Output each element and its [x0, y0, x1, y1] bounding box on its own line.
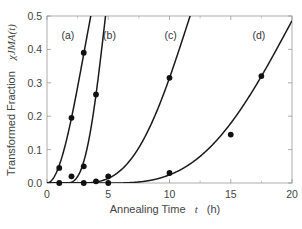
data-point-c	[167, 75, 173, 81]
data-point-a	[69, 115, 75, 121]
x-tick-label: 0	[44, 188, 50, 200]
x-axis-unit: (h)	[207, 203, 220, 215]
data-point-d	[228, 132, 234, 138]
series-label-a: (a)	[61, 29, 74, 41]
data-point-c	[105, 180, 111, 186]
x-axis-title: Annealing Time t (h)	[110, 203, 220, 215]
x-tick-label: 5	[105, 188, 111, 200]
series-label-d: (d)	[253, 29, 266, 41]
x-tick-label: 20	[286, 188, 298, 200]
y-axis-title-text: Transformed Fraction	[5, 71, 17, 176]
data-point-d	[167, 170, 173, 176]
transformation-kinetics-chart: 051015200.00.10.20.30.40.5 (a)(b)(c)(d) …	[0, 0, 302, 229]
data-point-b	[81, 180, 87, 186]
data-point-c	[105, 173, 111, 179]
series-label-c: (c)	[165, 29, 177, 41]
data-point-d	[258, 73, 264, 79]
data-point-c	[93, 178, 99, 184]
x-tick-label: 10	[164, 188, 176, 200]
data-point-a	[56, 165, 62, 171]
fit-curve-d	[47, 21, 292, 183]
y-tick-label: 0.4	[27, 43, 42, 55]
data-point-b	[93, 92, 99, 98]
data-point-b	[81, 163, 87, 169]
x-tick-label: 15	[225, 188, 237, 200]
y-tick-label: 0.3	[27, 77, 42, 89]
data-point-b	[69, 173, 75, 179]
x-axis-title-text: Annealing Time	[110, 203, 186, 215]
series-label-b: (b)	[103, 29, 116, 41]
y-axis-title: Transformed Fraction χJMA(t)	[5, 24, 18, 176]
x-axis-variable: t	[195, 203, 199, 215]
y-tick-label: 0.2	[27, 110, 42, 122]
data-point-a	[56, 180, 62, 186]
y-tick-label: 0.0	[27, 177, 42, 189]
y-tick-label: 0.5	[27, 10, 42, 22]
y-tick-label: 0.1	[27, 144, 42, 156]
data-point-a	[81, 50, 87, 56]
y-axis-variable: χJMA(t)	[5, 24, 18, 61]
